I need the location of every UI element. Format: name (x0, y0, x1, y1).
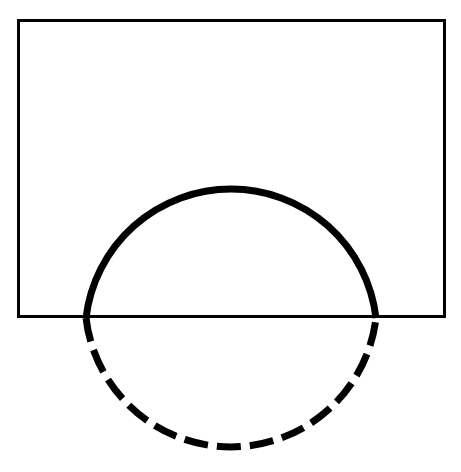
figure-canvas (0, 0, 461, 472)
background-fill (0, 0, 461, 472)
geometric-figure (0, 0, 461, 472)
